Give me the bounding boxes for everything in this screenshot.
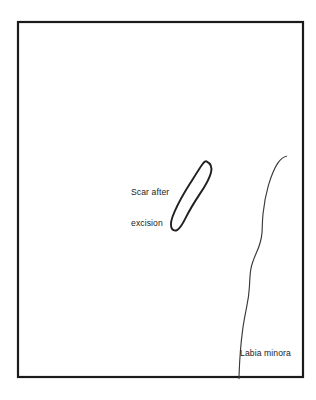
label-labia-minora: Labia minora bbox=[240, 348, 291, 358]
label-scar-line-2: excision bbox=[131, 218, 169, 228]
label-scar-line-1: Scar after bbox=[131, 187, 169, 197]
anatomical-figure: Scar after excision Labia minora bbox=[0, 0, 316, 400]
label-scar-after-excision: Scar after excision bbox=[131, 166, 169, 249]
